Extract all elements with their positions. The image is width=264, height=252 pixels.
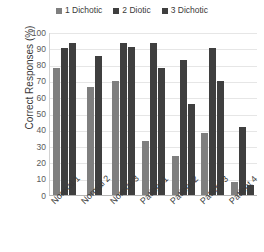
legend-item-2[interactable]: 2 Diotic: [113, 6, 150, 15]
x-tick-slot: Patient 2: [168, 196, 198, 252]
y-tick-label: 0: [26, 192, 46, 201]
x-tick-slot: Patient 4: [227, 196, 257, 252]
x-tick-slot: Normal 1: [49, 196, 79, 252]
bar[interactable]: [150, 43, 157, 195]
y-axis-tick-labels: 1009080706050403020100: [26, 27, 46, 201]
bar-chart: 1 Dichotic 2 Diotic 3 Dichotic Correct R…: [0, 0, 264, 252]
y-tick-label: 10: [26, 175, 46, 184]
x-tick-slot: Normal 2: [79, 196, 109, 252]
y-tick-label: 60: [26, 94, 46, 103]
bar[interactable]: [95, 56, 102, 195]
legend-swatch-2-diotic: [113, 8, 119, 14]
legend-swatch-3-dichotic: [162, 8, 168, 14]
legend-item-1[interactable]: 1 Dichotic: [56, 6, 102, 15]
y-tick-label: 30: [26, 143, 46, 152]
y-tick-label: 40: [26, 126, 46, 135]
y-tick-label: 20: [26, 159, 46, 168]
legend-label-2-diotic: 2 Diotic: [122, 6, 150, 15]
y-tick-label: 70: [26, 77, 46, 86]
bar[interactable]: [209, 48, 216, 195]
x-axis-tick-labels: Normal 1Normal 2Normal 3Patient 1Patient…: [49, 196, 257, 252]
bar[interactable]: [180, 60, 187, 195]
x-tick-slot: Patient 1: [138, 196, 168, 252]
y-tick-label: 50: [26, 110, 46, 119]
bar[interactable]: [53, 68, 60, 195]
x-tick-slot: Patient 3: [198, 196, 228, 252]
y-tick-label: 80: [26, 61, 46, 70]
legend-label-1-dichotic: 1 Dichotic: [65, 6, 102, 15]
legend-label-3-dichotic: 3 Dichotic: [171, 6, 208, 15]
bar[interactable]: [120, 43, 127, 195]
legend-item-3[interactable]: 3 Dichotic: [162, 6, 208, 15]
x-tick-slot: Normal 3: [108, 196, 138, 252]
bar[interactable]: [87, 87, 94, 195]
bar-group: [50, 33, 80, 195]
bar[interactable]: [61, 48, 68, 195]
y-tick-label: 100: [26, 29, 46, 38]
y-tick-label: 90: [26, 45, 46, 54]
legend-swatch-1-dichotic: [56, 8, 62, 14]
chart-legend: 1 Dichotic 2 Diotic 3 Dichotic: [0, 6, 264, 15]
